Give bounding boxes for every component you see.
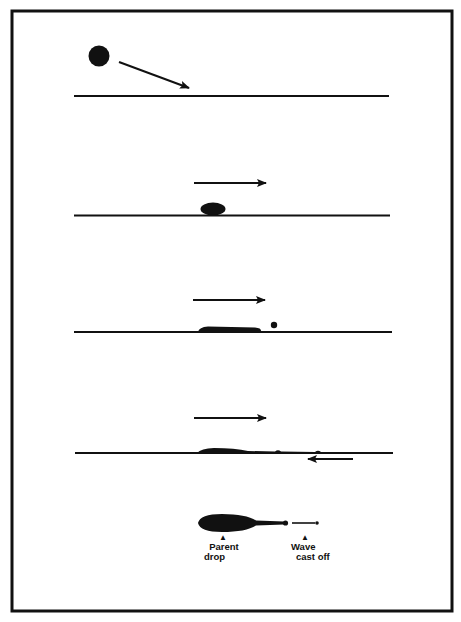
- wave-cast-off-label-line2: cast off: [288, 552, 334, 562]
- stage-2: [74, 183, 390, 216]
- parent-drop-label-line2: drop: [204, 552, 244, 562]
- neck-droplet: [283, 520, 288, 525]
- stage-3: [74, 300, 392, 332]
- drop-impact-diagram: [0, 0, 461, 622]
- landed-drop: [201, 203, 226, 216]
- wave-cast-off-droplet: [315, 521, 319, 525]
- parent-drop-shape: [198, 514, 284, 532]
- trajectory-arrow: [119, 62, 189, 88]
- stage-4: [75, 418, 393, 459]
- falling-drop: [89, 46, 110, 67]
- wave-cast-off-label: Wave cast off: [288, 542, 334, 562]
- stage-5: [198, 514, 319, 532]
- parent-drop-label: Parent drop: [204, 542, 244, 562]
- stage-1: [74, 46, 389, 97]
- ejected-droplet: [271, 322, 277, 328]
